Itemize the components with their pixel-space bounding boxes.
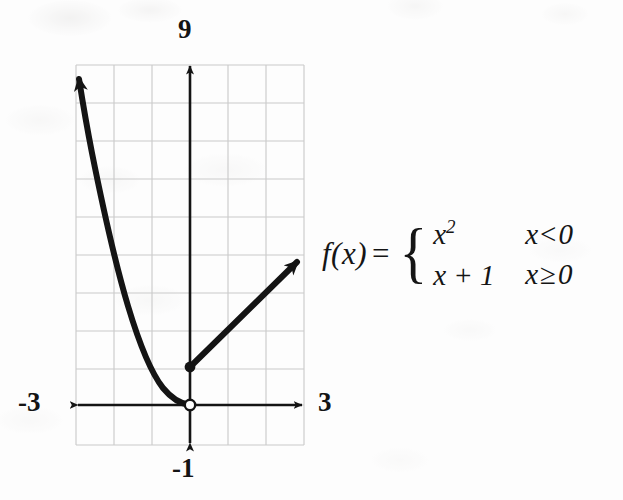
case-condition: x≥0: [525, 258, 572, 291]
x-axis-min-label: -3: [18, 389, 41, 416]
case-expression-exponent: 2: [446, 216, 456, 237]
case-expression: x + 1: [433, 257, 525, 292]
figure-canvas: 9 -1 -3 3 f(x) = { x2 x<0 x + 1 x≥0: [0, 0, 623, 500]
y-axis-min-label: -1: [172, 455, 195, 482]
formula-equals-sign: =: [372, 236, 389, 272]
formula-left-side: f(x): [322, 236, 367, 272]
y-axis-max-label: 9: [178, 16, 192, 43]
case-expression-base: x: [433, 258, 446, 290]
case-condition-value: 0: [558, 258, 573, 290]
formula-cases: x2 x<0 x + 1 x≥0: [433, 216, 573, 291]
case-expression: x2: [433, 216, 525, 251]
case-condition-operator: ≥: [538, 258, 558, 290]
formula-case-row: x + 1 x≥0: [433, 257, 573, 292]
x-axis-max-label: 3: [318, 389, 332, 416]
case-condition-variable: x: [525, 258, 538, 290]
closed-endpoint-dot: [185, 362, 196, 373]
case-condition: x<0: [525, 218, 573, 251]
piecewise-formula: f(x) = { x2 x<0 x + 1 x≥0: [322, 216, 573, 291]
parabola-branch: [79, 79, 190, 405]
formula-brace: {: [399, 226, 427, 279]
case-condition-operator: <: [538, 218, 558, 250]
case-expression-tail: + 1: [446, 258, 495, 290]
open-endpoint-circle: [185, 400, 195, 410]
case-expression-base: x: [433, 218, 446, 250]
case-condition-value: 0: [558, 218, 573, 250]
formula-case-row: x2 x<0: [433, 216, 573, 251]
line-branch: [190, 262, 297, 367]
case-condition-variable: x: [525, 218, 538, 250]
